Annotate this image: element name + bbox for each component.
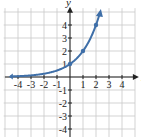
x-tick-label: 4 bbox=[120, 79, 125, 90]
x-tick-label: -3 bbox=[27, 79, 35, 90]
data-point bbox=[94, 23, 98, 27]
x-axis-label: x bbox=[140, 71, 141, 83]
y-tick-label: -4 bbox=[59, 124, 67, 135]
exponential-graph: xy-4-3-2-112344321-1-2-3-4 bbox=[0, 0, 141, 137]
data-point bbox=[81, 49, 85, 53]
x-axis-arrow-icon bbox=[133, 74, 139, 80]
y-axis-label: y bbox=[65, 0, 71, 8]
curve-arrow-up-icon bbox=[96, 9, 103, 17]
x-tick-label: 3 bbox=[107, 79, 112, 90]
x-tick-label: 2 bbox=[94, 79, 99, 90]
y-tick-label: 2 bbox=[62, 46, 67, 57]
x-tick-label: -2 bbox=[40, 79, 48, 90]
curve-arrow-left-icon bbox=[9, 73, 13, 79]
y-tick-label: -1 bbox=[59, 85, 67, 96]
data-point bbox=[68, 62, 72, 66]
y-tick-label: 4 bbox=[62, 20, 67, 31]
y-tick-label: -2 bbox=[59, 98, 67, 109]
x-tick-label: 1 bbox=[81, 79, 86, 90]
y-tick-label: 3 bbox=[62, 33, 67, 44]
x-tick-label: -4 bbox=[14, 79, 22, 90]
curve bbox=[10, 13, 100, 76]
y-tick-label: -3 bbox=[59, 111, 67, 122]
